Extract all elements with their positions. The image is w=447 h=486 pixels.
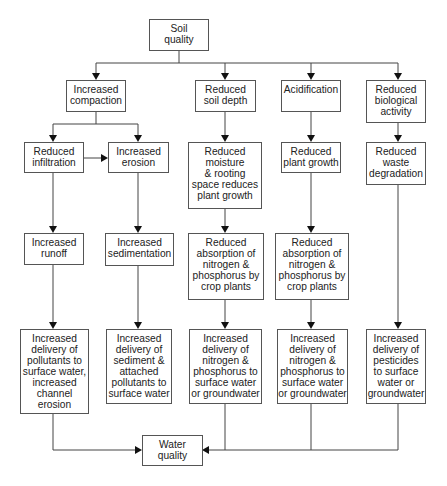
node-reduced-biological-activity: Reduced biological activity — [366, 80, 426, 123]
node-increased-erosion: Increased erosion — [108, 142, 169, 173]
node-delivery-pesticides: Increased delivery of pesticides to surf… — [366, 329, 426, 404]
node-reduced-moisture-rooting: Reduced moisture & rooting space reduces… — [188, 142, 262, 209]
node-reduced-soil-depth: Reduced soil depth — [195, 80, 256, 112]
node-reduced-absorption-2: Reduced absorption of nitrogen & phospho… — [275, 233, 349, 300]
node-reduced-waste-degradation: Reduced waste degradation — [366, 142, 426, 185]
node-acidification: Acidification — [281, 80, 341, 112]
node-reduced-infiltration: Reduced infiltration — [24, 142, 84, 173]
node-increased-sedimentation: Increased sedimentation — [105, 233, 174, 266]
node-delivery-nutrients-1: Increased delivery of nitrogen & phospho… — [189, 329, 262, 404]
node-delivery-nutrients-2: Increased delivery of nitrogen & phospho… — [277, 329, 348, 404]
node-reduced-absorption-1: Reduced absorption of nitrogen & phospho… — [188, 233, 264, 300]
node-water-quality: Water quality — [142, 435, 203, 466]
node-delivery-sediment: Increased delivery of sediment & attache… — [106, 329, 172, 404]
node-delivery-pollutants: Increased delivery of pollutants to surf… — [20, 329, 89, 414]
node-increased-runoff: Increased runoff — [24, 233, 84, 265]
node-soil-quality: Soil quality — [149, 19, 209, 51]
node-reduced-plant-growth: Reduced plant growth — [281, 142, 341, 173]
node-increased-compaction: Increased compaction — [66, 80, 126, 112]
